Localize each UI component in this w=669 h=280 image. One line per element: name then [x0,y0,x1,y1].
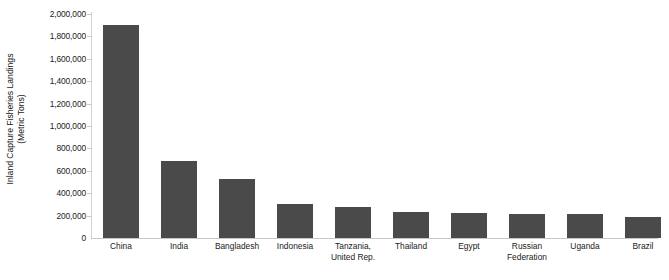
y-axis-tick-label: 1,800,000 [0,32,86,41]
bar-group [150,0,208,238]
x-axis-category-label-line: United Rep. [317,252,389,263]
y-axis-tick-mark [87,81,92,82]
bar[interactable] [277,204,313,238]
x-axis-category-label-line: Brazil [607,241,669,252]
bar-group [382,0,440,238]
bar[interactable] [393,212,429,238]
y-axis-tick-mark [87,104,92,105]
y-axis-tick-label: 400,000 [0,189,86,198]
bar-group [498,0,556,238]
bar-chart: Inland Capture Fisheries Landings (Metri… [0,0,669,280]
bar[interactable] [509,214,545,238]
y-axis-tick-label: 200,000 [0,211,86,220]
y-axis-tick-mark [87,14,92,15]
y-axis-tick-label: 800,000 [0,144,86,153]
y-axis-tick-label: 0 [0,234,86,243]
bar[interactable] [567,214,603,238]
y-axis-tick-label: 1,000,000 [0,122,86,131]
bar-group [556,0,614,238]
bar[interactable] [625,217,661,238]
y-axis-tick-mark [87,148,92,149]
bar[interactable] [161,161,197,238]
y-axis-tick-mark [87,126,92,127]
bar[interactable] [219,179,255,238]
y-axis-tick-mark [87,59,92,60]
x-axis-category-labels: ChinaIndiaBangladeshIndonesiaTanzania,Un… [92,241,658,280]
y-axis-tick-label: 1,200,000 [0,99,86,108]
y-axis-tick-mark [87,193,92,194]
y-axis-tick-mark [87,36,92,37]
bar-group [324,0,382,238]
y-axis-tick-mark [87,171,92,172]
y-axis-tick-label: 2,000,000 [0,10,86,19]
y-axis-tick-label: 1,600,000 [0,54,86,63]
bar-group [92,0,150,238]
x-axis-category-label: Brazil [607,241,669,252]
y-axis-tick-label: 600,000 [0,166,86,175]
bar-group [208,0,266,238]
y-axis-tick-mark [87,216,92,217]
bar[interactable] [335,207,371,238]
bar-group [614,0,669,238]
bar-group [440,0,498,238]
x-axis-line [91,238,658,239]
y-axis-tick-label: 1,400,000 [0,77,86,86]
bar[interactable] [103,25,139,238]
x-axis-category-label-line: Federation [491,252,563,263]
bar[interactable] [451,213,487,238]
y-axis-tick-labels: 2,000,0001,800,0001,600,0001,400,0001,20… [0,0,86,280]
plot-area [92,0,658,238]
bar-group [266,0,324,238]
